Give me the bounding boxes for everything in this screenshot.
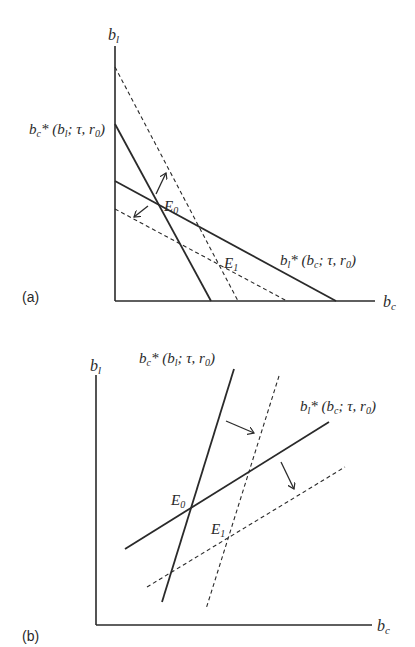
y-axis-label: bl: [108, 26, 119, 45]
bc-curve-label: bc* (bl; τ, r0): [139, 350, 215, 368]
panel-a-label: (a): [22, 289, 39, 305]
bc-reaction-curve: [162, 369, 234, 602]
bl-reaction-curve: [115, 181, 336, 301]
bl-reaction-curve-shifted: [115, 209, 287, 301]
bl-reaction-curve-shifted: [147, 467, 345, 587]
equilibrium-e0-label: E0: [170, 492, 185, 510]
bc-reaction-curve: [115, 124, 211, 301]
bc-reaction-curve-shifted: [115, 67, 238, 301]
shift-arrow-up-icon: [156, 173, 166, 194]
panel-b-label: (b): [22, 628, 39, 644]
x-axis-label: bc: [383, 293, 396, 312]
panel-b: bl bc E0 E1 bc* (bl; τ, r0) bl* (bc; τ, …: [22, 350, 390, 644]
bl-reaction-curve: [125, 422, 329, 549]
equilibrium-e0-label: E0: [163, 198, 178, 216]
shift-arrow-right-icon: [226, 421, 254, 433]
shift-arrow-down-icon: [134, 206, 148, 217]
y-axis-label: bl: [90, 357, 101, 376]
equilibrium-e1-label: E1: [223, 255, 238, 273]
equilibrium-e1-label: E1: [210, 521, 225, 539]
x-axis-label: bc: [377, 617, 390, 636]
panel-a: bl bc E0 E1 bc* (bl; τ, r0) bl* (bc; τ, …: [22, 26, 396, 312]
reaction-function-diagram: bl bc E0 E1 bc* (bl; τ, r0) bl* (bc; τ, …: [0, 0, 415, 647]
bc-curve-label: bc* (bl; τ, r0): [29, 121, 105, 139]
shift-arrow-down-icon: [281, 462, 294, 489]
bl-curve-label: bl* (bc; τ, r0): [300, 398, 376, 416]
bl-curve-label: bl* (bc; τ, r0): [280, 252, 356, 270]
